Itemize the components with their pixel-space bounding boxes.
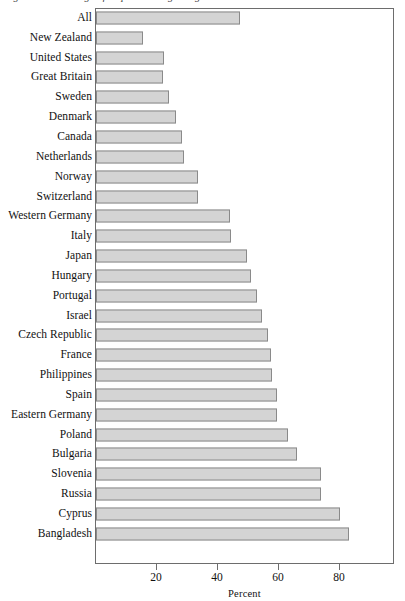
bar [96, 170, 198, 183]
bar [96, 369, 272, 382]
bar-row: Japan [0, 246, 405, 266]
bar-row: Russia [0, 484, 405, 504]
category-label: Israel [66, 310, 92, 322]
bar [96, 51, 164, 64]
bar [96, 428, 288, 441]
bar [96, 448, 297, 461]
category-label: New Zealand [30, 32, 92, 44]
x-axis-tick [217, 564, 218, 570]
category-label: Slovenia [51, 469, 92, 481]
bar-row: Switzerland [0, 187, 405, 207]
category-label: Hungary [51, 270, 92, 282]
category-label: Spain [66, 389, 92, 401]
category-label: Cyprus [58, 508, 92, 520]
bar-rows-container: AllNew ZealandUnited StatesGreat Britain… [0, 8, 405, 564]
bar-row: Canada [0, 127, 405, 147]
bar-row: Norway [0, 167, 405, 187]
category-label: Denmark [49, 111, 92, 123]
bar-row: Western Germany [0, 206, 405, 226]
category-label: Italy [71, 230, 92, 242]
bar-row: Bangladesh [0, 524, 405, 544]
bar [96, 91, 169, 104]
category-label: Norway [55, 171, 92, 183]
bar-chart-figure: Figure 1. Percentage of respondents agre… [0, 0, 405, 601]
x-axis-tick [278, 564, 279, 570]
bar [96, 71, 163, 84]
bar-row: Bulgaria [0, 445, 405, 465]
bar-row: New Zealand [0, 28, 405, 48]
bar-row: Israel [0, 306, 405, 326]
bar [96, 190, 198, 203]
category-label: Canada [57, 131, 92, 143]
bar-row: Great Britain [0, 68, 405, 88]
bar-row: Hungary [0, 266, 405, 286]
bar [96, 468, 321, 481]
category-label: Western Germany [8, 211, 92, 223]
bar [96, 31, 143, 44]
x-axis-tick [339, 564, 340, 570]
category-label: Philippines [40, 369, 92, 381]
bar [96, 289, 257, 302]
category-label: Japan [66, 250, 92, 262]
category-label: Netherlands [36, 151, 92, 163]
bar [96, 269, 251, 282]
bar [96, 309, 262, 322]
bar [96, 388, 277, 401]
x-axis-tick-label: 60 [272, 571, 284, 583]
bar [96, 130, 182, 143]
bar-row: Spain [0, 385, 405, 405]
bar-row: Slovenia [0, 464, 405, 484]
bar-row: Czech Republic [0, 326, 405, 346]
category-label: Great Britain [31, 72, 92, 84]
bar-row: Poland [0, 425, 405, 445]
category-label: Sweden [55, 92, 92, 104]
x-axis-tick-label: 20 [150, 571, 162, 583]
bar-row: Eastern Germany [0, 405, 405, 425]
bar-row: Philippines [0, 365, 405, 385]
bar [96, 111, 176, 124]
bar [96, 230, 231, 243]
bar-row: Portugal [0, 286, 405, 306]
bar-row: Netherlands [0, 147, 405, 167]
category-label: Russia [61, 488, 92, 500]
bar-row: Sweden [0, 87, 405, 107]
bar [96, 250, 247, 263]
category-label: All [77, 12, 92, 24]
bar-row: United States [0, 48, 405, 68]
x-axis-tick-label: 80 [333, 571, 345, 583]
x-axis-tick [156, 564, 157, 570]
bar [96, 11, 240, 24]
category-label: Poland [60, 429, 92, 441]
bar-row: Cyprus [0, 504, 405, 524]
bar [96, 488, 321, 501]
bar-row: All [0, 8, 405, 28]
x-axis-tick-label: 40 [211, 571, 223, 583]
bar-row: Italy [0, 226, 405, 246]
figure-caption-text: Figure 1. Percentage of respondents agre… [4, 0, 200, 2]
figure-caption-cutoff: Figure 1. Percentage of respondents agre… [0, 0, 405, 7]
bar [96, 329, 268, 342]
bar [96, 527, 349, 540]
category-label: Switzerland [37, 191, 92, 203]
category-label: France [60, 350, 92, 362]
bar-row: Denmark [0, 107, 405, 127]
x-axis-title: Percent [95, 588, 394, 599]
category-label: Bangladesh [38, 528, 92, 540]
bar [96, 349, 271, 362]
bar-row: France [0, 345, 405, 365]
category-label: Eastern Germany [11, 409, 92, 421]
bar [96, 408, 277, 421]
bar [96, 210, 230, 223]
category-label: Bulgaria [52, 449, 92, 461]
category-label: Portugal [53, 290, 92, 302]
category-label: Czech Republic [18, 330, 92, 342]
category-label: United States [30, 52, 92, 64]
bar [96, 508, 340, 521]
bar [96, 150, 184, 163]
